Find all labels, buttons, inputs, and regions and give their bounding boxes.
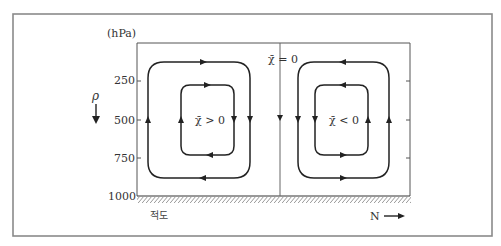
right-cell-label: χ̄ < 0 — [329, 114, 359, 127]
y-unit-label: (hPa) — [107, 27, 136, 40]
equator-label: 적도 — [150, 210, 168, 221]
north-label: N — [370, 210, 380, 223]
y-tick-500: 500 — [114, 114, 135, 127]
divider-label: χ̄ = 0 — [268, 53, 298, 66]
y-tick-1000: 1000 — [108, 190, 136, 203]
rho-symbol: ρ — [91, 89, 99, 103]
y-tick-250: 250 — [114, 74, 135, 87]
left-cell-label: χ̄ > 0 — [195, 114, 225, 127]
ground-hatch — [137, 197, 411, 203]
circulation-diagram: (hPa) 250 500 750 1000 ρ χ̄ = 0 χ̄ > 0 — [0, 0, 501, 246]
y-tick-750: 750 — [114, 152, 135, 165]
